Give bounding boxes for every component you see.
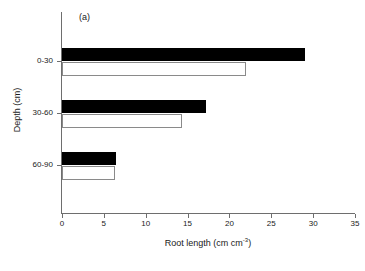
x-tick-label: 35 xyxy=(343,219,365,228)
bar-open xyxy=(62,62,246,76)
x-tick-mark xyxy=(146,214,147,218)
y-tick-label: 60-90 xyxy=(33,160,53,169)
x-tick-mark xyxy=(313,214,314,218)
x-axis-line xyxy=(61,213,355,214)
x-tick-label: 30 xyxy=(301,219,325,228)
x-tick-mark xyxy=(188,214,189,218)
x-tick-mark xyxy=(229,214,230,218)
x-tick-label: 25 xyxy=(259,219,283,228)
x-tick-mark xyxy=(104,214,105,218)
bar-open xyxy=(62,114,182,128)
x-tick-label: 5 xyxy=(92,219,116,228)
x-tick-mark xyxy=(355,214,356,218)
x-tick-label: 20 xyxy=(217,219,241,228)
y-axis-title: Depth (cm) xyxy=(12,65,22,155)
x-tick-label: 10 xyxy=(134,219,158,228)
y-tick-label: 0-30 xyxy=(37,56,53,65)
x-tick-mark xyxy=(271,214,272,218)
bar-filled xyxy=(62,48,305,61)
bar-filled xyxy=(62,100,206,113)
bar-open xyxy=(62,166,115,180)
x-tick-label: 0 xyxy=(50,219,74,228)
y-tick-label: 30-60 xyxy=(33,108,53,117)
x-axis-title-main: Root length (cm cm xyxy=(165,238,243,248)
bar-filled xyxy=(62,152,116,165)
x-axis-title: Root length (cm cm-3) xyxy=(61,238,355,248)
x-tick-label: 15 xyxy=(176,219,200,228)
chart-figure: (a) 05101520253035 0-3030-6060-90 Root l… xyxy=(0,0,365,271)
x-tick-mark xyxy=(62,214,63,218)
x-axis-title-tail: ) xyxy=(248,238,251,248)
